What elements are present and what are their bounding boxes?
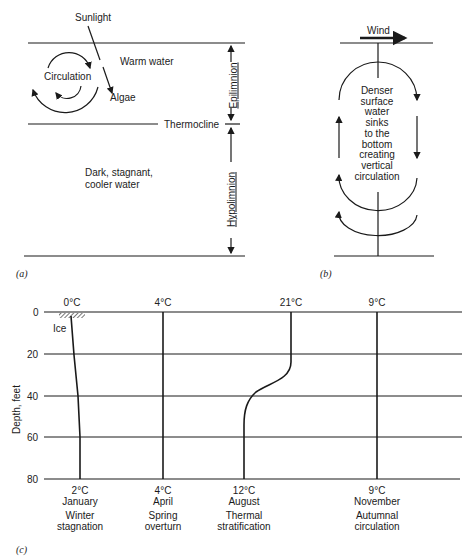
y-axis-label: Depth, feet bbox=[11, 380, 22, 440]
desc-line: to the bbox=[345, 129, 409, 140]
y-tick-60: 60 bbox=[27, 432, 38, 443]
phase: overturn bbox=[128, 521, 198, 532]
aug-top-temp: 21°C bbox=[274, 297, 308, 308]
circulation-label: Circulation bbox=[44, 71, 91, 82]
aug-bottom-labels: 12°C August Thermal stratification bbox=[209, 485, 279, 532]
warm-water-label: Warm water bbox=[120, 56, 174, 67]
bottom-temp: 2°C bbox=[45, 485, 115, 496]
month: August bbox=[209, 496, 279, 507]
month: January bbox=[45, 496, 115, 507]
phase: Spring bbox=[128, 510, 198, 521]
nov-top-temp: 9°C bbox=[360, 297, 394, 308]
phase: Winter bbox=[45, 510, 115, 521]
apr-top-temp: 4°C bbox=[146, 297, 180, 308]
ice-label: Ice bbox=[53, 323, 66, 334]
cool-water-label-2: cooler water bbox=[85, 179, 139, 190]
cool-water-label-1: Dark, stagnant, bbox=[85, 167, 153, 178]
bottom-temp: 9°C bbox=[342, 485, 412, 496]
panel-c-graphics bbox=[44, 312, 462, 479]
wind-label: Wind bbox=[367, 25, 390, 36]
panel-c-tag: (c) bbox=[16, 544, 27, 555]
phase: Thermal bbox=[209, 510, 279, 521]
month: April bbox=[128, 496, 198, 507]
desc-line: circulation bbox=[345, 172, 409, 183]
panel-b-description: Denser surface water sinks to the bottom… bbox=[345, 86, 409, 182]
y-tick-20: 20 bbox=[27, 349, 38, 360]
sunlight-label: Sunlight bbox=[75, 12, 111, 23]
jan-bottom-labels: 2°C January Winter stagnation bbox=[45, 485, 115, 532]
y-tick-0: 0 bbox=[33, 307, 39, 318]
bottom-temp: 12°C bbox=[209, 485, 279, 496]
y-tick-40: 40 bbox=[27, 391, 38, 402]
y-tick-80: 80 bbox=[27, 474, 38, 485]
panel-a-tag: (a) bbox=[16, 268, 28, 279]
apr-bottom-labels: 4°C April Spring overturn bbox=[128, 485, 198, 532]
phase: Autumnal bbox=[342, 510, 412, 521]
epilimnion-label: Epilimnion bbox=[228, 56, 239, 116]
jan-top-temp: 0°C bbox=[55, 297, 89, 308]
month: November bbox=[342, 496, 412, 507]
bottom-temp: 4°C bbox=[128, 485, 198, 496]
hypolimnion-label: Hypolimnion bbox=[226, 165, 237, 235]
phase: stratification bbox=[209, 521, 279, 532]
panel-b-tag: (b) bbox=[320, 268, 332, 279]
phase: circulation bbox=[342, 521, 412, 532]
phase: stagnation bbox=[45, 521, 115, 532]
thermocline-label: Thermocline bbox=[164, 119, 219, 130]
algae-label: Algae bbox=[110, 92, 136, 103]
nov-bottom-labels: 9°C November Autumnal circulation bbox=[342, 485, 412, 532]
